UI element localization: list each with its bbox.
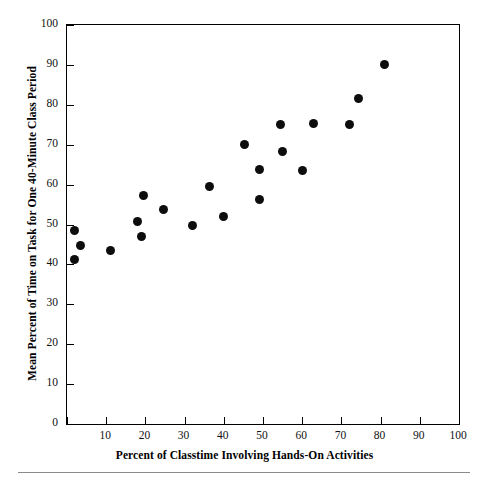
data-point [70,226,79,235]
x-tick-mark [185,417,186,424]
plot-area [66,24,460,425]
footer-divider [18,472,470,473]
data-point [345,120,354,129]
y-axis-title: Mean Percent of Time on Task for One 40-… [26,24,42,423]
data-point [139,191,148,200]
data-point [70,255,79,264]
y-tick-mark [67,145,74,146]
data-point [76,241,85,250]
y-tick-mark [67,105,74,106]
data-point [255,165,264,174]
data-point [255,195,264,204]
data-point [240,140,249,149]
data-point [188,221,197,230]
y-tick-mark [67,25,74,26]
y-tick-mark [67,304,74,305]
data-point [309,119,318,128]
x-tick-label: 80 [360,429,400,441]
scatter-plot-figure: 0102030405060708090100 10203040506070809… [0,0,489,488]
x-tick-label: 20 [124,429,164,441]
x-tick-label: 90 [399,429,439,441]
y-tick-mark [67,264,74,265]
y-tick-mark [67,344,74,345]
x-tick-label: 10 [85,429,125,441]
x-tick-mark [302,417,303,424]
x-tick-mark [145,417,146,424]
x-tick-mark [106,417,107,424]
data-point [159,205,168,214]
x-tick-mark [420,417,421,424]
data-point [354,94,363,103]
y-tick-mark [67,185,74,186]
x-tick-label: 100 [438,429,478,441]
x-tick-mark [67,417,68,424]
x-tick-label: 50 [242,429,282,441]
y-tick-mark [67,424,74,425]
data-point [278,147,287,156]
y-tick-mark [67,384,74,385]
data-point [106,246,115,255]
x-tick-mark [224,417,225,424]
x-tick-label: 70 [320,429,360,441]
data-point [298,166,307,175]
data-point [137,232,146,241]
x-tick-label: 40 [203,429,243,441]
x-tick-mark [381,417,382,424]
data-point [133,217,142,226]
x-tick-label: 60 [281,429,321,441]
data-point [380,60,389,69]
x-tick-mark [459,417,460,424]
data-point [276,120,285,129]
x-tick-mark [341,417,342,424]
x-tick-label: 30 [164,429,204,441]
x-axis-title: Percent of Classtime Involving Hands-On … [0,449,489,461]
x-tick-mark [263,417,264,424]
data-point [219,212,228,221]
data-point [205,182,214,191]
y-tick-mark [67,65,74,66]
